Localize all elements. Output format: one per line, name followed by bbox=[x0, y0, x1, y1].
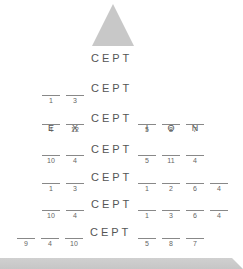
blank: O8 bbox=[162, 124, 180, 134]
blank: 4 bbox=[210, 183, 228, 193]
word: CEPT bbox=[90, 226, 131, 238]
blank: 5 bbox=[138, 155, 156, 165]
blank: I5 bbox=[138, 124, 156, 134]
blank: 8 bbox=[162, 238, 180, 248]
blank: 1 bbox=[42, 95, 60, 105]
word: CEPT bbox=[91, 112, 132, 124]
blank: 10 bbox=[42, 210, 60, 220]
blank: 9 bbox=[17, 238, 35, 248]
root-word: CEPT bbox=[91, 52, 132, 64]
word: CEPT bbox=[91, 143, 132, 155]
bottom-bar bbox=[0, 258, 243, 269]
blank: 6 bbox=[186, 210, 204, 220]
blank: 11 bbox=[162, 155, 180, 165]
blank: 2 bbox=[162, 183, 180, 193]
blank: 1 bbox=[138, 183, 156, 193]
blank: X12 bbox=[66, 124, 84, 134]
word: CEPT bbox=[91, 198, 132, 210]
blank: 5 bbox=[138, 238, 156, 248]
blank: 3 bbox=[162, 210, 180, 220]
blank: 1 bbox=[42, 183, 60, 193]
blank: 3 bbox=[66, 183, 84, 193]
word: CEPT bbox=[91, 171, 132, 183]
blank: 4 bbox=[41, 238, 59, 248]
blank: 10 bbox=[65, 238, 83, 248]
blank: 1 bbox=[138, 210, 156, 220]
blank: 4 bbox=[210, 210, 228, 220]
blank: 4 bbox=[186, 155, 204, 165]
word: CEPT bbox=[91, 82, 132, 94]
blank: 4 bbox=[66, 155, 84, 165]
blank: 3 bbox=[66, 95, 84, 105]
blank: N7 bbox=[186, 124, 204, 134]
blank: E4 bbox=[42, 124, 60, 134]
blank: 7 bbox=[186, 238, 204, 248]
blank: 4 bbox=[66, 210, 84, 220]
triangle-shape bbox=[92, 4, 134, 46]
blank: 6 bbox=[186, 183, 204, 193]
blank: 10 bbox=[42, 155, 60, 165]
